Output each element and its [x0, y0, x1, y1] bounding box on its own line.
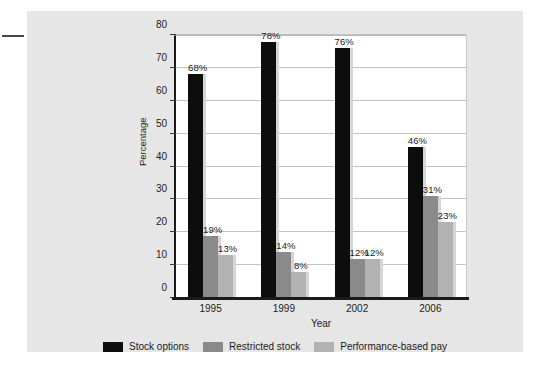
- legend-item[interactable]: Stock options: [103, 341, 189, 352]
- x-axis-tick-label: 1999: [273, 303, 295, 314]
- legend-item[interactable]: Restricted stock: [203, 341, 300, 352]
- bar: [203, 236, 218, 298]
- gridline: [176, 133, 466, 134]
- y-axis-tick: [170, 34, 176, 35]
- bar-value-label: 78%: [261, 30, 280, 41]
- gridline: [176, 100, 466, 101]
- y-axis-tick-label: 0: [161, 282, 167, 293]
- x-axis-tick-label: 2002: [346, 303, 368, 314]
- legend-label: Stock options: [129, 341, 189, 352]
- y-axis-tick: [170, 166, 176, 167]
- bar: [188, 74, 203, 298]
- legend-item[interactable]: Performance-based pay: [314, 341, 447, 352]
- bar: [261, 42, 276, 298]
- bar: [335, 48, 350, 298]
- bar-value-label: 23%: [438, 210, 457, 221]
- bar-value-label: 68%: [188, 62, 207, 73]
- bar-value-label: 19%: [203, 224, 222, 235]
- bar-value-label: 8%: [294, 260, 308, 271]
- legend-swatch: [103, 342, 123, 352]
- legend-swatch: [314, 342, 334, 352]
- y-axis-tick-label: 60: [156, 84, 167, 95]
- plot-area: 01020304050607080 68%19%13%78%14%8%76%12…: [174, 35, 467, 298]
- y-axis-tick-label: 10: [156, 249, 167, 260]
- x-axis-tick-label: 2006: [419, 303, 441, 314]
- legend-label: Restricted stock: [229, 341, 300, 352]
- bar-value-label: 46%: [408, 135, 427, 146]
- y-axis-tick: [170, 133, 176, 134]
- y-axis-tick-label: 80: [156, 19, 167, 30]
- y-axis-tick: [170, 231, 176, 232]
- x-axis-tick-label: 1995: [200, 303, 222, 314]
- chart-legend: Stock optionsRestricted stockPerformance…: [27, 341, 523, 352]
- legend-label: Performance-based pay: [340, 341, 447, 352]
- y-axis-tick: [170, 100, 176, 101]
- y-axis-tick: [170, 67, 176, 68]
- y-axis-tick: [170, 264, 176, 265]
- y-axis-tick-label: 20: [156, 216, 167, 227]
- bar-value-label: 31%: [423, 184, 442, 195]
- bar-value-label: 12%: [365, 247, 384, 258]
- y-axis-title: Percentage: [137, 117, 148, 166]
- bar: [423, 196, 438, 298]
- bar-value-label: 76%: [335, 36, 354, 47]
- left-edge-rule: [2, 35, 24, 37]
- bar: [350, 259, 365, 298]
- bar: [365, 259, 380, 298]
- legend-swatch: [203, 342, 223, 352]
- bar: [291, 272, 306, 298]
- bar: [408, 147, 423, 298]
- y-axis-tick-label: 70: [156, 51, 167, 62]
- x-axis-line: [172, 297, 469, 300]
- figure-card: Percentage 01020304050607080 68%19%13%78…: [27, 11, 523, 352]
- bar-value-label: 13%: [218, 243, 237, 254]
- y-axis-tick: [170, 198, 176, 199]
- bar-value-label: 14%: [276, 240, 295, 251]
- bar: [438, 222, 453, 298]
- y-axis-tick-label: 30: [156, 183, 167, 194]
- y-axis-tick-label: 50: [156, 117, 167, 128]
- gridline: [176, 67, 466, 68]
- bar: [276, 252, 291, 298]
- bar: [218, 255, 233, 298]
- x-axis-title: Year: [311, 318, 331, 329]
- gridline: [176, 34, 466, 35]
- y-axis-tick-label: 40: [156, 150, 167, 161]
